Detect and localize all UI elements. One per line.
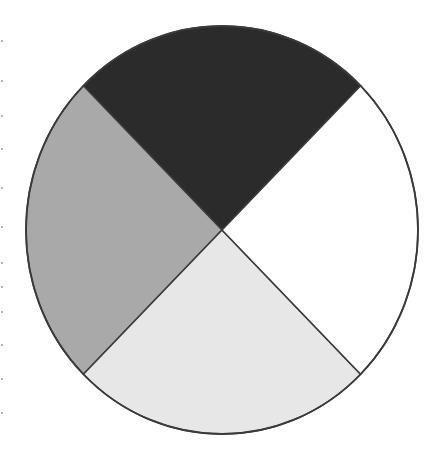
chart-canvas bbox=[0, 0, 436, 453]
pie-chart bbox=[0, 0, 436, 453]
